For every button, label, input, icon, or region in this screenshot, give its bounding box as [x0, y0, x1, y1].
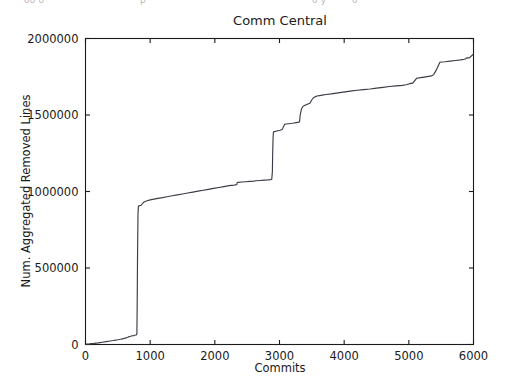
x-tick-label: 6000	[459, 349, 488, 363]
y-tick-label: 500000	[35, 261, 79, 275]
x-tick-label: 5000	[394, 349, 423, 363]
y-axis-label: Num. Aggregated Removed Lines	[19, 95, 33, 288]
figure-canvas: oo opo yo Comm Central 05000001000000150…	[0, 0, 506, 385]
y-tick-label: 2000000	[27, 32, 78, 46]
y-axis-ticks: 0500000100000015000002000000	[27, 32, 473, 352]
x-axis-ticks: 0100020003000400050006000	[82, 39, 488, 363]
data-series-line	[86, 54, 474, 344]
chart-title: Comm Central	[233, 13, 327, 28]
x-tick-label: 1000	[136, 349, 165, 363]
y-tick-label: 1500000	[27, 108, 78, 122]
x-tick-label: 2000	[200, 349, 229, 363]
chart-plot: Comm Central 050000010000001500000200000…	[0, 0, 506, 385]
y-tick-label: 0	[71, 338, 78, 352]
x-axis-label: Commits	[254, 361, 305, 375]
x-tick-label: 4000	[330, 349, 359, 363]
x-tick-label: 0	[82, 349, 89, 363]
plot-frame	[86, 39, 474, 345]
y-tick-label: 1000000	[27, 185, 78, 199]
